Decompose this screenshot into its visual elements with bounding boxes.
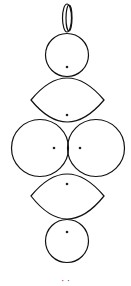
left-circle — [12, 120, 69, 177]
lower-lens-center-dot — [66, 183, 69, 186]
right-circle-center-dot — [79, 147, 82, 150]
left-circle-center-dot — [53, 147, 56, 150]
cut-off-caption: · · — [0, 276, 131, 286]
right-circle — [68, 120, 125, 177]
bottom-circle — [46, 220, 89, 263]
bottom-circle-center-dot — [66, 231, 69, 234]
lower-lens — [31, 174, 104, 219]
top-circle — [46, 34, 89, 77]
top-ring — [63, 4, 73, 32]
upper-lens — [31, 78, 104, 122]
upper-lens-center-dot — [66, 114, 69, 117]
top-circle-center-dot — [66, 66, 69, 69]
